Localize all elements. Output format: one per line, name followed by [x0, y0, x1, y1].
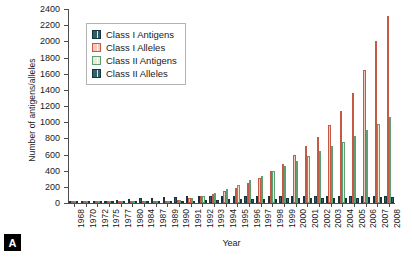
x-tick-mark — [296, 203, 297, 207]
legend-item[interactable]: Class I Alleles — [92, 41, 177, 54]
bar-group — [221, 9, 230, 203]
x-tick-label: 1994 — [229, 209, 238, 228]
x-tick-mark — [74, 203, 75, 207]
bar — [366, 130, 368, 203]
figure-panel-a: Number of antigens/alleles 0200400600800… — [0, 0, 412, 257]
x-tick-label: 1992 — [206, 209, 215, 228]
x-tick-mark — [249, 203, 250, 207]
legend-swatch-icon — [92, 43, 101, 52]
legend-swatch-icon — [92, 56, 101, 65]
bar-group — [291, 9, 300, 203]
x-tick-mark — [156, 203, 157, 207]
bar — [331, 146, 333, 203]
bar — [342, 142, 344, 203]
legend-label: Class II Antigens — [106, 55, 177, 66]
y-tick-label: 800 — [45, 134, 60, 143]
legend-item[interactable]: Class I Antigens — [92, 28, 177, 41]
x-tick-label: 1972 — [101, 209, 110, 228]
x-tick-mark — [121, 203, 122, 207]
x-tick-label: 2006 — [369, 209, 378, 228]
panel-label-a: A — [4, 234, 21, 251]
x-tick-mark — [109, 203, 110, 207]
y-tick-label: 200 — [45, 182, 60, 191]
bar-group — [233, 9, 242, 203]
legend-label: Class II Alleles — [106, 68, 168, 79]
legend-swatch-icon — [92, 69, 101, 78]
x-tick-mark — [366, 203, 367, 207]
bar — [296, 161, 298, 203]
x-tick-label: 1984 — [147, 209, 156, 228]
x-tick-mark — [226, 203, 227, 207]
x-tick-label: 1975 — [112, 209, 121, 228]
bar-group — [349, 9, 358, 203]
x-tick-mark — [354, 203, 355, 207]
x-axis-title: Year — [68, 238, 395, 248]
bar — [284, 166, 286, 203]
x-tick-mark — [284, 203, 285, 207]
x-tick-mark — [342, 203, 343, 207]
bar-group — [361, 9, 370, 203]
x-tick-label: 2008 — [393, 209, 402, 228]
x-tick-label: 2001 — [311, 209, 320, 228]
y-tick-label: 400 — [45, 166, 60, 175]
bar-group — [186, 9, 195, 203]
y-tick-label: 600 — [45, 150, 60, 159]
y-tick-label: 1400 — [40, 85, 60, 94]
bar-group — [256, 9, 265, 203]
chart-legend: Class I AntigensClass I AllelesClass II … — [86, 23, 186, 85]
x-tick-label: 2004 — [346, 209, 355, 228]
bar-group — [244, 9, 253, 203]
x-axis-ticks: 1968197019721975197719801984198719891990… — [68, 203, 395, 257]
x-tick-mark — [389, 203, 390, 207]
x-tick-label: 1997 — [264, 209, 273, 228]
y-axis-ticks: 0200400600800100012001400160018002000220… — [28, 0, 64, 257]
x-tick-mark — [86, 203, 87, 207]
bar-group — [209, 9, 218, 203]
x-tick-mark — [261, 203, 262, 207]
x-tick-mark — [272, 203, 273, 207]
bar-group — [268, 9, 277, 203]
bar-group — [314, 9, 323, 203]
legend-label: Class I Alleles — [106, 42, 165, 53]
legend-swatch-icon — [92, 30, 101, 39]
bar-group — [69, 9, 78, 203]
y-tick-label: 1600 — [40, 69, 60, 78]
bar — [319, 151, 321, 203]
x-tick-mark — [319, 203, 320, 207]
legend-item[interactable]: Class II Antigens — [92, 54, 177, 67]
x-tick-label: 1993 — [217, 209, 226, 228]
x-tick-label: 1990 — [182, 209, 191, 228]
y-tick-label: 1000 — [40, 118, 60, 127]
x-tick-mark — [377, 203, 378, 207]
x-tick-mark — [97, 203, 98, 207]
y-tick-label: 2400 — [40, 5, 60, 14]
x-tick-label: 2007 — [381, 209, 390, 228]
bar — [389, 117, 391, 203]
x-tick-mark — [214, 203, 215, 207]
x-tick-label: 2002 — [323, 209, 332, 228]
x-tick-label: 1968 — [77, 209, 86, 228]
x-tick-label: 2003 — [334, 209, 343, 228]
x-tick-label: 1989 — [171, 209, 180, 228]
bar — [307, 156, 309, 203]
bar-group — [303, 9, 312, 203]
x-tick-label: 1991 — [194, 209, 203, 228]
legend-item[interactable]: Class II Alleles — [92, 67, 177, 80]
bar-group — [198, 9, 207, 203]
x-tick-mark — [202, 203, 203, 207]
x-tick-mark — [144, 203, 145, 207]
bar — [377, 124, 379, 203]
bar-group — [326, 9, 335, 203]
x-tick-label: 1987 — [159, 209, 168, 228]
x-tick-label: 1980 — [136, 209, 145, 228]
x-tick-mark — [179, 203, 180, 207]
x-tick-label: 1996 — [253, 209, 262, 228]
x-tick-mark — [307, 203, 308, 207]
bar — [354, 136, 356, 203]
y-tick-label: 1800 — [40, 53, 60, 62]
bar-group — [279, 9, 288, 203]
bar-group — [373, 9, 382, 203]
x-tick-label: 1977 — [124, 209, 133, 228]
x-tick-label: 1995 — [241, 209, 250, 228]
x-tick-mark — [191, 203, 192, 207]
